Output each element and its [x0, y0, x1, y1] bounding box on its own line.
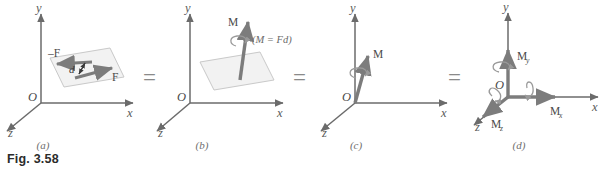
panel-c-label: (c) [336, 139, 376, 151]
moment-y-subscript: y [525, 56, 530, 65]
axis-system-c: y x z O [321, 1, 447, 140]
panel-b: y x z O M (M = Fd) [152, 0, 302, 150]
y-axis-label: y [501, 0, 509, 14]
moment-z-arrow [483, 97, 508, 117]
z-axis-label: z [157, 126, 163, 140]
panel-b-diagram: y x z O M (M = Fd) [152, 0, 312, 150]
panel-c-diagram: y x z O M [310, 0, 460, 150]
moment-x-rotation-spiral [525, 82, 533, 97]
panel-d-label: (d) [499, 139, 539, 151]
z-axis-label: z [321, 126, 327, 140]
force-negative-label: –F [47, 47, 60, 59]
moment-relation-label: (M = Fd) [252, 34, 292, 46]
force-negative-arrow [57, 62, 92, 64]
distance-label: d [69, 63, 75, 75]
panel-a: y x z O –F F d [2, 0, 152, 150]
panel-d: y x z O M y M x M z [462, 0, 607, 150]
x-axis-label: x [126, 106, 133, 120]
x-axis-label: x [440, 106, 447, 120]
y-axis-label: y [34, 1, 42, 15]
moment-vector-arrow [355, 56, 368, 103]
panel-a-diagram: y x z O –F F d [2, 0, 152, 150]
force-positive-label: F [112, 71, 118, 83]
origin-label: O [28, 90, 37, 104]
y-axis-label: y [183, 1, 191, 15]
figure-caption: Fig. 3.58 [7, 152, 59, 166]
z-axis-label: z [474, 120, 480, 134]
moment-z-subscript: z [499, 124, 503, 133]
panel-a-label: (a) [23, 139, 63, 151]
equals-sign-2: = [293, 66, 306, 89]
figure-3-58: y x z O –F F d = (a) [0, 0, 607, 172]
y-axis-label: y [348, 1, 356, 15]
moment-label: M [228, 16, 238, 28]
origin-label: O [177, 90, 186, 104]
z-axis-label: z [7, 126, 13, 140]
x-axis-label: x [591, 100, 598, 114]
x-axis-label: x [276, 106, 283, 120]
moment-label: M [373, 48, 383, 60]
equals-sign-3: = [448, 66, 461, 89]
panel-d-diagram: y x z O M y M x M z [462, 0, 607, 150]
origin-label: O [342, 90, 351, 104]
panel-b-label: (b) [182, 139, 222, 151]
moment-plane [200, 52, 274, 90]
panel-c: y x z O M [310, 0, 460, 150]
moment-x-subscript: x [558, 111, 563, 120]
